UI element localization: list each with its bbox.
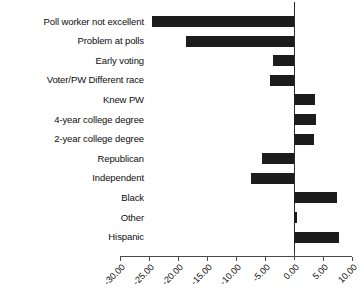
axis-tick [352, 257, 353, 261]
bar [262, 153, 294, 164]
axis-tick [149, 257, 150, 261]
bar [294, 134, 314, 145]
bar [270, 75, 294, 86]
axis-tick [120, 257, 121, 261]
bar [294, 94, 315, 105]
bar [251, 173, 294, 184]
axis-tick [265, 257, 266, 261]
bar [294, 232, 339, 243]
bar [294, 114, 316, 125]
bar-chart: Poll worker not excellent Problem at pol… [0, 0, 364, 299]
plot-area [0, 0, 364, 252]
axis-tick [323, 257, 324, 261]
bar [294, 192, 337, 203]
bar [273, 55, 294, 66]
axis-tick [178, 257, 179, 261]
bar [152, 16, 294, 27]
axis-tick-zero [294, 253, 295, 260]
axis-tick [207, 257, 208, 261]
bar [294, 212, 297, 223]
axis-tick [236, 257, 237, 261]
bar [186, 36, 294, 47]
